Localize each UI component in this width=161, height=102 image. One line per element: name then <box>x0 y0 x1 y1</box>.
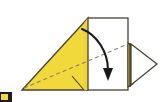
right-white-triangle-flap <box>131 44 157 85</box>
origami-diagram <box>0 0 161 102</box>
corner-thumbnail-marker <box>0 91 13 102</box>
origami-illustration <box>0 0 161 102</box>
corner-thumbnail-accent <box>1 94 8 100</box>
large-yellow-triangle <box>22 18 88 90</box>
